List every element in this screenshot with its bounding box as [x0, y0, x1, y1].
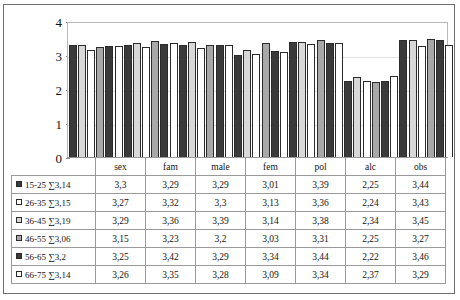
- legend-swatch-icon: [16, 235, 22, 241]
- bar: [436, 40, 444, 157]
- table-cell: 2,25: [346, 176, 396, 194]
- table-cell: 3,36: [296, 194, 346, 212]
- table-cell: 3,29: [146, 176, 196, 194]
- table-cell: 3,15: [96, 230, 146, 248]
- table-cell: 3,39: [196, 212, 246, 230]
- table-cell: 3,39: [296, 176, 346, 194]
- bar: [124, 45, 132, 157]
- y-axis-tick-label: 1: [56, 118, 63, 131]
- bar: [335, 43, 343, 157]
- data-table: sexfammalefempolalcobs 15-25 ∑3,143,33,2…: [11, 157, 446, 284]
- bar: [409, 40, 417, 157]
- bar: [170, 43, 178, 157]
- bar: [78, 45, 86, 157]
- bar: [142, 47, 150, 157]
- table-cell: 3,29: [96, 212, 146, 230]
- legend-swatch-icon: [16, 253, 22, 259]
- table-body: 15-25 ∑3,143,33,293,293,013,392,253,4426…: [12, 176, 446, 284]
- table-cell: 3,27: [96, 194, 146, 212]
- table-cell: 3,42: [146, 248, 196, 266]
- table-cell: 3,25: [96, 248, 146, 266]
- table-cell: 3,45: [396, 212, 446, 230]
- table-cell: 3,44: [296, 248, 346, 266]
- table-cell: 3,26: [96, 266, 146, 284]
- table-cell: 3,3: [196, 194, 246, 212]
- table-column-header: alc: [346, 158, 396, 176]
- bar-group-fem: [233, 23, 288, 157]
- bar-groups: [68, 23, 447, 157]
- y-axis: 01234: [44, 13, 66, 167]
- bar: [326, 43, 334, 157]
- table-cell: 2,22: [346, 248, 396, 266]
- bar: [133, 43, 141, 157]
- y-axis-tick-label: 2: [56, 84, 63, 97]
- table-cell: 2,37: [346, 266, 396, 284]
- bar-group-obs: [399, 23, 454, 157]
- bar-group-male: [178, 23, 233, 157]
- table-column-header: pol: [296, 158, 346, 176]
- legend-swatch-icon: [16, 199, 22, 205]
- table-column-header: fam: [146, 158, 196, 176]
- bar-group-fam: [123, 23, 178, 157]
- legend-entry: 66-75 ∑3,14: [12, 266, 96, 284]
- bar: [381, 81, 389, 157]
- table-cell: 2,34: [346, 212, 396, 230]
- bar: [317, 40, 325, 157]
- bar: [418, 46, 426, 157]
- table-cell: 3,3: [96, 176, 146, 194]
- bar: [225, 45, 233, 157]
- table-row: 56-65 ∑3,23,253,423,293,343,442,223,46: [12, 248, 446, 266]
- legend-label: 46-55 ∑3,06: [25, 234, 70, 244]
- bar-group-sex: [68, 23, 123, 157]
- bar: [188, 42, 196, 157]
- table-cell: 2,25: [346, 230, 396, 248]
- bar: [216, 45, 224, 157]
- legend-swatch-icon: [16, 271, 22, 277]
- bar: [179, 45, 187, 157]
- table-cell: 3,43: [396, 194, 446, 212]
- bar: [96, 47, 104, 158]
- legend-label: 66-75 ∑3,14: [25, 270, 70, 280]
- table-cell: 3,14: [246, 212, 296, 230]
- bar: [105, 46, 113, 157]
- table-cell: 3,01: [246, 176, 296, 194]
- bar: [271, 51, 279, 157]
- table-cell: 3,29: [196, 248, 246, 266]
- bar: [234, 55, 242, 157]
- legend-label: 26-35 ∑3,15: [25, 198, 70, 208]
- table-row: 15-25 ∑3,143,33,293,293,013,392,253,44: [12, 176, 446, 194]
- bar: [197, 48, 205, 157]
- table-row: 26-35 ∑3,153,273,323,33,133,362,243,43: [12, 194, 446, 212]
- table-cell: 3,44: [396, 176, 446, 194]
- y-axis-tick-label: 4: [56, 16, 63, 29]
- bar: [372, 82, 380, 157]
- bar: [427, 39, 435, 157]
- table-cell: 3,03: [246, 230, 296, 248]
- table-column-header: obs: [396, 158, 446, 176]
- legend-entry: 15-25 ∑3,14: [12, 176, 96, 194]
- table-cell: 3,32: [146, 194, 196, 212]
- table-row: 66-75 ∑3,143,263,353,283,093,342,373,29: [12, 266, 446, 284]
- table-cell: 3,34: [296, 266, 346, 284]
- y-axis-tick-label: 3: [56, 50, 63, 63]
- table-row: 46-55 ∑3,063,153,233,23,033,312,253,27: [12, 230, 446, 248]
- table-cell: 3,35: [146, 266, 196, 284]
- table-column-header: sex: [96, 158, 146, 176]
- table-cell: 3,31: [296, 230, 346, 248]
- bar: [390, 76, 398, 157]
- bar: [344, 81, 352, 158]
- bar: [252, 54, 260, 157]
- bar: [363, 81, 371, 158]
- bar-group-pol: [289, 23, 344, 157]
- legend-label: 56-65 ∑3,2: [25, 252, 66, 262]
- legend-label: 15-25 ∑3,14: [25, 180, 70, 190]
- table-column-header: male: [196, 158, 246, 176]
- table-corner-cell: [12, 158, 96, 176]
- bar: [353, 77, 361, 157]
- bar: [160, 44, 168, 157]
- bar: [151, 41, 159, 157]
- table-column-header: fem: [246, 158, 296, 176]
- legend-entry: 26-35 ∑3,15: [12, 194, 96, 212]
- bar: [289, 42, 297, 157]
- table-header-row: sexfammalefempolalcobs: [12, 158, 446, 176]
